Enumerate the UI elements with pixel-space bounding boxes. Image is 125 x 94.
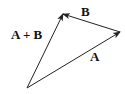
label-b: B bbox=[81, 4, 90, 19]
label-sum: A + B bbox=[11, 27, 43, 42]
label-a: A bbox=[90, 49, 100, 64]
vector-diagram: A + B B A bbox=[0, 0, 125, 94]
vector-b-arrow bbox=[63, 14, 120, 32]
